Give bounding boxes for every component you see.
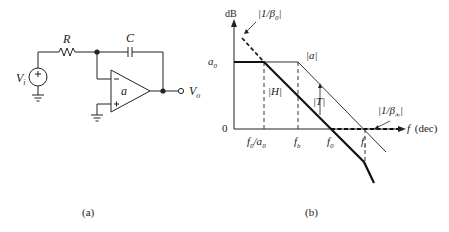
- y-tick-a0: a0: [208, 55, 218, 70]
- integrator-circuit: [29, 47, 184, 121]
- label-inv-beta-inf: |1/β∞|: [378, 104, 403, 119]
- output-terminal-icon: [178, 88, 183, 93]
- caption-b: (b): [305, 206, 318, 219]
- y-axis-label: dB: [225, 8, 237, 19]
- caption-a: (a): [82, 206, 95, 219]
- curve-closed-loop-gain: [234, 62, 374, 183]
- resistor-label: R: [62, 32, 71, 46]
- resistor-icon: [59, 48, 75, 56]
- y-axis-arrow-icon: [231, 19, 237, 27]
- label-inv-beta0: |1/β0|: [258, 7, 282, 22]
- label-closed-loop-gain: |H|: [268, 85, 282, 97]
- y-tick-zero: 0: [222, 122, 228, 134]
- x-tick-fb: fb: [294, 135, 301, 150]
- ground-icon: [91, 115, 103, 121]
- x-tick-f0-over-a0: f0/a0: [247, 135, 266, 150]
- capacitor-label: C: [126, 31, 135, 45]
- label-loop-gain: |T|: [313, 95, 325, 107]
- figure: R C Vi Vo a (a) dB f (dec) f (dec) a0: [0, 0, 449, 232]
- x-tick-ft: ft: [361, 135, 367, 150]
- opamp-gain-label: a: [121, 84, 127, 98]
- ground-icon: [32, 95, 44, 101]
- input-voltage-label: Vi: [16, 71, 26, 87]
- x-axis-label: f (dec): [407, 122, 438, 135]
- junction-dot: [160, 88, 165, 93]
- output-voltage-label: Vo: [189, 84, 200, 100]
- junction-dot: [94, 49, 99, 54]
- label-open-loop-gain: |a|: [306, 49, 318, 61]
- curve-inv-beta0: [242, 38, 264, 62]
- x-tick-f0: f0: [327, 135, 334, 150]
- x-axis-arrow-icon: [398, 126, 406, 132]
